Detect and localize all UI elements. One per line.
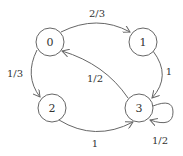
edge-1-to-3 <box>152 51 162 98</box>
state-label-1: 1 <box>140 36 147 49</box>
edge-label-1-to-3: 1 <box>166 66 172 77</box>
markov-chain-diagram: 0 1 2 3 2/3 1/3 1 1/2 1 1/2 <box>0 0 183 156</box>
edge-label-3-self-loop: 1/2 <box>152 135 168 146</box>
state-label-0: 0 <box>47 36 54 49</box>
state-label-3: 3 <box>136 102 143 115</box>
edge-label-2-to-3: 1 <box>92 138 98 149</box>
edge-label-3-to-0: 1/2 <box>87 73 103 84</box>
edge-0-to-1 <box>61 23 130 32</box>
edge-label-0-to-2: 1/3 <box>7 68 23 79</box>
edge-3-self-loop <box>150 103 173 123</box>
edge-label-0-to-1: 2/3 <box>89 8 105 19</box>
state-label-2: 2 <box>49 102 56 115</box>
edge-0-to-2 <box>31 50 40 97</box>
edge-2-to-3 <box>59 120 133 132</box>
